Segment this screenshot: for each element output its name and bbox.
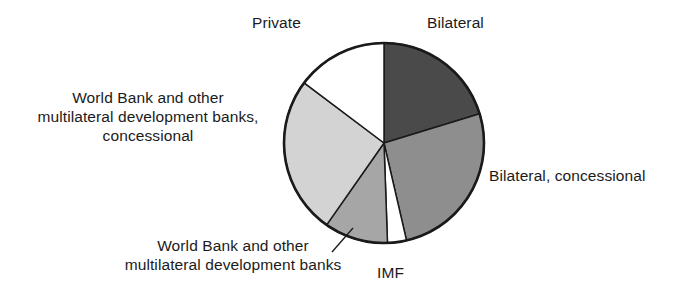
- pie-label-world-bank-concessional: World Bank and other multilateral develo…: [28, 88, 268, 145]
- pie-label-bilateral-concessional: Bilateral, concessional: [489, 166, 646, 185]
- pie-chart-figure: Private Bilateral Bilateral, concessiona…: [0, 0, 693, 302]
- pie-label-world-bank: World Bank and other multilateral develo…: [108, 236, 358, 274]
- pie-label-imf: IMF: [377, 263, 404, 282]
- pie-label-private: Private: [252, 13, 301, 32]
- pie-label-bilateral: Bilateral: [427, 13, 484, 32]
